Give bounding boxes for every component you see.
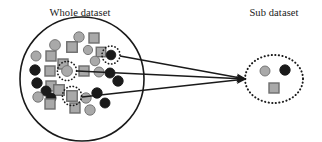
sub-dataset-label: Sub dataset — [249, 7, 298, 18]
data-point-square — [269, 83, 279, 93]
data-point-circle — [32, 78, 42, 88]
data-point-square — [67, 91, 78, 102]
data-point-square — [67, 42, 78, 53]
data-point-circle — [31, 51, 41, 61]
data-point-circle — [113, 76, 123, 86]
data-point-circle — [85, 105, 95, 115]
data-point-circle — [280, 65, 290, 75]
sub-dataset-group — [245, 55, 303, 103]
data-point-square — [46, 51, 56, 61]
data-point-circle — [260, 66, 270, 76]
data-point-circle — [50, 40, 61, 51]
data-point-circle — [62, 66, 73, 77]
data-point-circle — [33, 92, 43, 102]
sub-dataset-boundary — [245, 55, 303, 103]
data-point-square — [89, 33, 99, 43]
arrows-group — [77, 56, 246, 97]
data-point-square — [70, 103, 80, 113]
data-point-square — [45, 99, 55, 109]
data-point-circle — [92, 88, 102, 98]
data-point-circle — [81, 93, 91, 103]
data-point-circle — [90, 56, 100, 66]
whole-dataset-group — [20, 17, 144, 141]
data-point-circle — [83, 45, 92, 54]
data-point-square — [96, 47, 106, 57]
data-point-circle — [106, 50, 116, 60]
data-point-circle — [30, 65, 40, 75]
dataset-sampling-diagram: Whole dataset Sub dataset — [0, 0, 322, 142]
diagram-canvas: Whole dataset Sub dataset — [0, 0, 322, 142]
data-point-circle — [100, 98, 110, 108]
data-point-square — [45, 66, 55, 76]
data-point-circle — [74, 32, 84, 42]
sampling-arrow — [82, 79, 246, 97]
whole-dataset-label: Whole dataset — [49, 7, 110, 18]
